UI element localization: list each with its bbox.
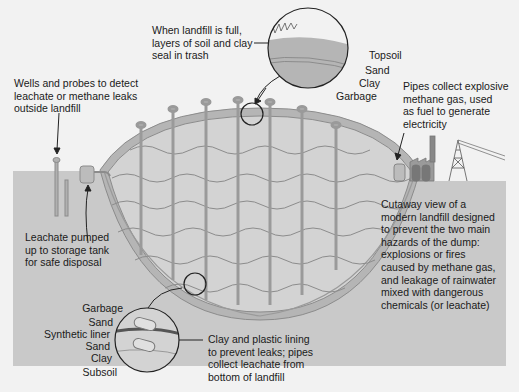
leachate-note: Leachate pumped up to storage tank for s… <box>25 231 109 269</box>
top-inset <box>254 8 360 101</box>
top-layer-clay: Clay <box>359 77 380 90</box>
top-layer-garbage: Garbage <box>336 90 377 103</box>
bottom-layer-liner: Synthetic liner <box>44 328 110 341</box>
top-layer-sand: Sand <box>365 64 390 77</box>
bottom-layer-clay: Clay <box>91 352 112 365</box>
pipes-note: Pipes collect explosive methane gas, use… <box>403 80 509 130</box>
top-layer-topsoil: Topsoil <box>369 49 402 62</box>
bottom-layer-sand-2: Sand <box>85 340 110 353</box>
bottom-layer-subsoil: Subsoil <box>83 366 117 379</box>
cutaway-note: Cutaway view of a modern landfill design… <box>381 198 496 311</box>
wells-note: Wells and probes to detect leachate or m… <box>14 77 138 115</box>
bottom-layer-sand: Sand <box>88 316 113 329</box>
lining-note: Clay and plastic lining to prevent leaks… <box>208 333 313 383</box>
bottom-layer-garbage: Garbage <box>82 302 123 315</box>
cap-note: When landfill is full, layers of soil an… <box>152 24 252 62</box>
